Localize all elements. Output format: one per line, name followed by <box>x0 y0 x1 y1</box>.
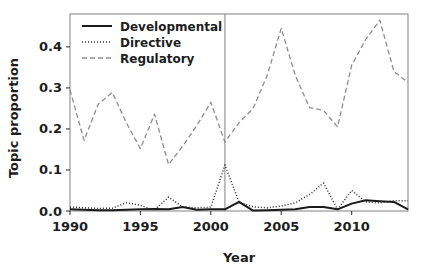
y-tick-label: 0.0 <box>39 204 62 219</box>
x-axis-label: Year <box>222 250 256 265</box>
x-tick-label: 2010 <box>334 219 370 234</box>
y-axis-label: Topic proportion <box>6 58 21 178</box>
legend-label: Developmental <box>120 20 222 34</box>
legend-label: Directive <box>120 36 181 50</box>
x-tick-label: 1995 <box>122 219 158 234</box>
y-tick-label: 0.4 <box>39 39 62 54</box>
x-tick-label: 1990 <box>52 219 88 234</box>
legend-label: Regulatory <box>120 52 195 66</box>
y-tick-label: 0.1 <box>39 162 62 177</box>
x-tick-label: 2005 <box>263 219 299 234</box>
chart-figure: 0.00.10.20.30.4 19901995200020052010 Dev… <box>0 0 426 268</box>
chart-canvas: 0.00.10.20.30.4 19901995200020052010 Dev… <box>0 0 426 268</box>
x-tick-label: 2000 <box>193 219 229 234</box>
y-tick-label: 0.2 <box>39 121 62 136</box>
y-tick-label: 0.3 <box>39 80 62 95</box>
